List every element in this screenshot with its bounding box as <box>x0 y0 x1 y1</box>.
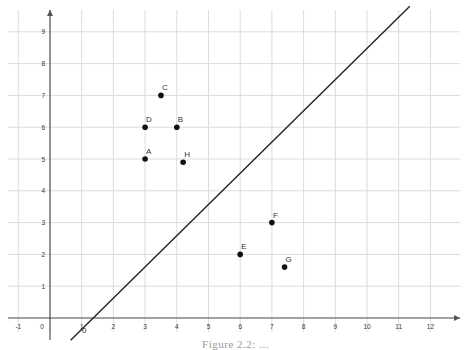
data-point-d <box>142 124 148 130</box>
x-tick-label: 11 <box>395 323 402 330</box>
data-points: ABCDEFGH <box>142 83 292 270</box>
x-axis-arrow-icon <box>454 315 460 321</box>
figure-caption: Figure 2.2: ... <box>0 338 471 350</box>
y-axis-arrow-icon <box>47 10 53 16</box>
point-label-e: E <box>241 242 246 251</box>
x-tick-label: 0 <box>40 323 44 330</box>
data-point-a <box>142 156 148 162</box>
point-label-g: G <box>286 255 292 264</box>
y-tick-label: 3 <box>41 219 45 226</box>
y-tick-label: 9 <box>41 28 45 35</box>
data-point-f <box>269 220 275 226</box>
y-tick-label: 5 <box>41 156 45 163</box>
x-tick-label: 6 <box>238 323 242 330</box>
y-tick-label: 8 <box>41 60 45 67</box>
data-point-b <box>174 124 180 130</box>
y-tick-label: 6 <box>41 124 45 131</box>
grid-lines <box>8 10 460 332</box>
line-label: 0 <box>82 326 87 335</box>
x-tick-label: 5 <box>207 323 211 330</box>
axes <box>8 10 460 340</box>
x-tick-label: 8 <box>302 323 306 330</box>
x-tick-label: 3 <box>143 323 147 330</box>
point-label-a: A <box>146 147 152 156</box>
y-tick-label: 7 <box>41 92 45 99</box>
x-tick-label: 12 <box>427 323 435 330</box>
x-tick-label: 7 <box>270 323 274 330</box>
x-tick-label: -1 <box>15 323 21 330</box>
x-tick-label: 4 <box>175 323 179 330</box>
data-point-c <box>158 93 164 99</box>
point-label-h: H <box>184 150 190 159</box>
data-point-e <box>237 252 243 258</box>
point-label-b: B <box>178 115 183 124</box>
data-point-h <box>180 159 186 165</box>
x-tick-label: 10 <box>363 323 371 330</box>
point-label-f: F <box>273 211 278 220</box>
y-tick-label: 4 <box>41 187 45 194</box>
x-tick-label: 2 <box>112 323 116 330</box>
tick-labels: -10123456789101112123456789 <box>15 28 434 330</box>
point-label-d: D <box>146 115 152 124</box>
x-tick-label: 9 <box>333 323 337 330</box>
y-tick-label: 2 <box>41 251 45 258</box>
y-tick-label: 1 <box>41 283 45 290</box>
point-label-c: C <box>162 83 168 92</box>
data-point-g <box>282 264 288 270</box>
